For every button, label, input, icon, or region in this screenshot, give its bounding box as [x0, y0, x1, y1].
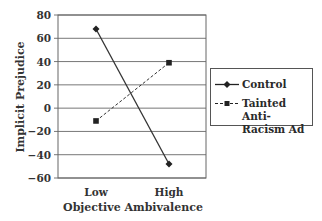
y-tick-label: −60	[28, 172, 51, 184]
diamond-marker-icon	[93, 25, 100, 32]
y-axis-ticks: 806040200−20−40−60	[28, 9, 51, 184]
y-tick-label: 20	[36, 79, 51, 91]
gridlines	[54, 15, 206, 178]
square-marker-icon	[166, 60, 172, 66]
dashed-square-line-icon	[214, 97, 240, 110]
series-line	[96, 63, 169, 121]
legend-label-line1: Tainted Anti-	[242, 97, 286, 122]
chart-legend: Control Tainted Anti- Racism Ad	[210, 68, 313, 126]
solid-diamond-line-icon	[214, 78, 240, 91]
legend-label-control: Control	[242, 78, 286, 91]
legend-item-tainted: Tainted Anti- Racism Ad	[214, 97, 312, 136]
series-line	[96, 29, 169, 164]
y-tick-label: 40	[36, 56, 51, 68]
legend-label-line2: Racism Ad	[242, 123, 304, 135]
square-marker-icon	[93, 118, 99, 124]
data-series	[93, 25, 173, 167]
x-tick-low: Low	[84, 186, 108, 198]
x-axis-title: Objective Ambivalence	[63, 201, 203, 214]
x-tick-high: High	[155, 186, 184, 198]
diamond-marker-icon	[166, 161, 173, 168]
y-tick-label: 0	[44, 102, 51, 114]
legend-label-tainted: Tainted Anti- Racism Ad	[242, 97, 312, 136]
y-tick-label: −20	[28, 125, 51, 137]
y-tick-label: 60	[36, 32, 51, 44]
y-tick-label: −40	[28, 149, 51, 161]
y-axis-title: Implicit Prejudice	[14, 41, 27, 152]
legend-item-control: Control	[214, 78, 286, 91]
y-tick-label: 80	[36, 9, 51, 21]
